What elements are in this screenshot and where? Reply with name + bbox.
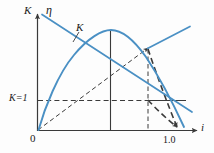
figure-container: K η K K=1 0 1.0 i bbox=[0, 0, 214, 153]
y-axis-label-K: K bbox=[24, 5, 31, 16]
level-label-k-equals-one: K=1 bbox=[9, 93, 27, 103]
origin-label: 0 bbox=[30, 133, 36, 144]
x-axis-label-i: i bbox=[201, 122, 204, 133]
x-tick-label-one: 1.0 bbox=[163, 135, 176, 145]
y-axis-label-eta: η bbox=[46, 4, 52, 16]
reflected-branch-ascending bbox=[148, 27, 191, 49]
curve-annotation-K: K bbox=[76, 22, 83, 33]
torque-line-K-descending bbox=[42, 15, 192, 113]
plot-canvas bbox=[0, 0, 214, 153]
